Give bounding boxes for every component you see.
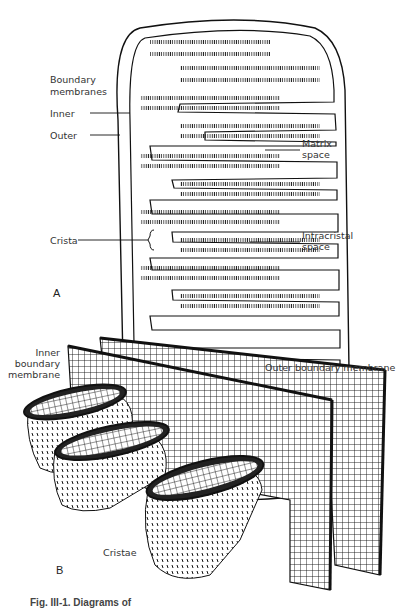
matrix-space-label-line1: Matrix — [302, 138, 332, 149]
intracristal-space-label-line1: Intracristal — [302, 230, 353, 241]
cristae-label: Cristae — [103, 547, 137, 558]
boundary-membranes-label-line2: membranes — [50, 86, 107, 97]
figure-caption: Fig. III-1. Diagrams of — [30, 597, 132, 608]
outer-boundary-label: Outer boundary membrane — [265, 362, 395, 373]
mitochondrion-figure: Boundary membranes Inner Outer Matrix sp… — [0, 0, 402, 608]
panel-a-label: A — [53, 287, 61, 299]
crista-label: Crista — [50, 235, 78, 246]
outer-label: Outer — [50, 130, 77, 141]
panel-b-diagram: Inner boundary membrane Outer boundary m… — [8, 338, 395, 590]
panel-b-label: B — [56, 564, 63, 576]
boundary-membranes-label-line1: Boundary — [50, 74, 96, 85]
cristae-fringes — [140, 40, 320, 308]
crista-bracket — [148, 230, 154, 250]
intracristal-space-label-line2: space — [302, 241, 330, 252]
inner-label: Inner — [50, 108, 75, 119]
inner-boundary-label-line1: Inner — [35, 347, 60, 358]
inner-boundary-label-line3: membrane — [8, 369, 60, 380]
matrix-space-label-line2: space — [302, 149, 330, 160]
inner-boundary-label-line2: boundary — [15, 358, 61, 369]
